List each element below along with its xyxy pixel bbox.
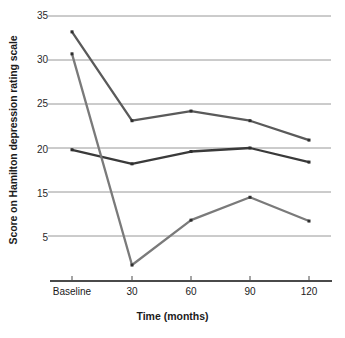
x-axis-line-and-ticks [50, 276, 332, 281]
series-line-1 [72, 32, 309, 140]
data-point-2-3 [249, 147, 252, 150]
line-chart: Score on Hamilton depression rating scal… [0, 0, 345, 338]
series-2 [71, 147, 311, 166]
data-point-3-3 [249, 196, 252, 199]
data-point-1-0 [71, 30, 74, 33]
data-point-1-1 [131, 119, 134, 122]
data-point-2-0 [71, 148, 74, 151]
x-axis-title: Time (months) [0, 310, 345, 322]
x-tick-label-30: 30 [126, 286, 137, 297]
data-point-3-1 [131, 264, 134, 267]
series-1 [71, 30, 311, 141]
data-point-2-1 [131, 162, 134, 165]
x-tick-label-120: 120 [301, 286, 318, 297]
x-tick-label-baseline: Baseline [53, 286, 91, 297]
data-point-1-2 [190, 110, 193, 113]
data-point-3-4 [308, 220, 311, 223]
data-point-2-2 [190, 150, 193, 153]
data-point-1-4 [308, 139, 311, 142]
x-tick-label-60: 60 [185, 286, 196, 297]
plot-area [0, 0, 345, 300]
gridlines [48, 16, 331, 236]
data-point-3-2 [190, 219, 193, 222]
data-point-2-4 [308, 161, 311, 164]
data-point-1-3 [249, 119, 252, 122]
data-point-3-0 [71, 52, 74, 55]
x-tick-label-90: 90 [244, 286, 255, 297]
